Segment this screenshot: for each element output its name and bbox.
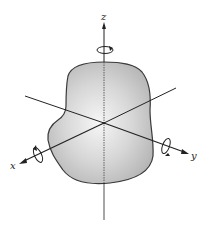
x-axis-label: x <box>10 160 16 171</box>
z-arrowhead-icon <box>102 22 106 29</box>
x-arrowhead-icon <box>19 158 27 164</box>
y-axis-label: y <box>190 150 197 161</box>
y-arrowhead-icon <box>181 149 189 154</box>
origin-point <box>103 122 105 124</box>
z-rotation-arrow-icon <box>97 46 113 54</box>
diagram-canvas: z x y <box>0 0 208 230</box>
rigid-body-shape <box>48 62 153 184</box>
z-axis-label: z <box>100 11 107 22</box>
